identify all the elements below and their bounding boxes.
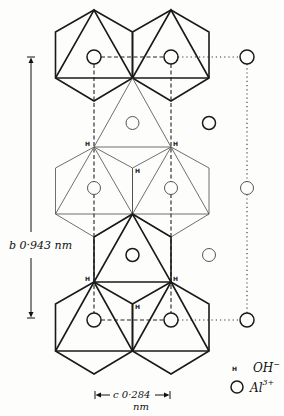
al-atom bbox=[87, 50, 101, 64]
legend-hydroxyl-symbol: H bbox=[232, 365, 237, 372]
al-atom bbox=[165, 182, 178, 195]
arrow-down-icon bbox=[29, 312, 34, 318]
legend-al-base: Al bbox=[249, 381, 263, 395]
c-dimension-unit: nm bbox=[133, 401, 149, 412]
bottom-octahedra-layer bbox=[56, 282, 210, 374]
h-label: H bbox=[135, 303, 140, 310]
upper-linking-triangle bbox=[94, 78, 171, 147]
al-atom bbox=[241, 182, 254, 195]
legend-hydroxyl-label: OH− bbox=[253, 360, 280, 375]
b-axis-name: b bbox=[9, 239, 16, 252]
octahedron-bottom-left bbox=[56, 282, 133, 374]
al-atom bbox=[87, 313, 101, 327]
b-axis-value: 0·943 bbox=[20, 239, 52, 252]
legend-hydroxyl-base: OH bbox=[253, 361, 274, 375]
h-label: H bbox=[85, 275, 90, 282]
al-atom bbox=[203, 117, 216, 130]
middle-octahedra-layer bbox=[56, 147, 210, 237]
h-label: H bbox=[85, 140, 90, 147]
b-dimension-label: b 0·943 nm bbox=[9, 239, 72, 252]
b-axis-unit: nm bbox=[55, 239, 73, 252]
h-label: H bbox=[135, 167, 140, 174]
h-label: H bbox=[173, 140, 178, 147]
al-atom bbox=[126, 117, 139, 130]
legend: H OH− Al3+ bbox=[231, 360, 280, 395]
arrow-right-icon bbox=[164, 393, 170, 398]
b-dimension: b 0·943 nm bbox=[9, 57, 72, 318]
al-atom bbox=[240, 313, 254, 327]
c-dimension-label: c 0·284 bbox=[113, 389, 150, 400]
linking-triangle-upper bbox=[94, 78, 171, 147]
al-atom bbox=[164, 50, 178, 64]
legend-hydroxyl-sup: − bbox=[273, 360, 280, 369]
gibbsite-structure-diagram: H H H H H H b 0·943 nm c 0·284 nm bbox=[0, 0, 284, 416]
octahedron-bottom-right bbox=[133, 282, 210, 374]
legend-al-sup: 3+ bbox=[263, 378, 275, 387]
al-atom bbox=[203, 249, 216, 262]
c-dimension: c 0·284 nm bbox=[95, 389, 170, 412]
legend-al-label: Al3+ bbox=[249, 378, 274, 395]
h-label: H bbox=[173, 275, 178, 282]
c-axis-value: 0·284 bbox=[122, 389, 151, 400]
top-octahedra-layer bbox=[56, 10, 210, 101]
al-atom bbox=[126, 249, 139, 262]
legend-al-symbol bbox=[231, 381, 243, 393]
al-atom bbox=[88, 182, 101, 195]
c-axis-name: c bbox=[113, 389, 119, 400]
al-atom bbox=[164, 313, 178, 327]
al-atom bbox=[240, 50, 254, 64]
